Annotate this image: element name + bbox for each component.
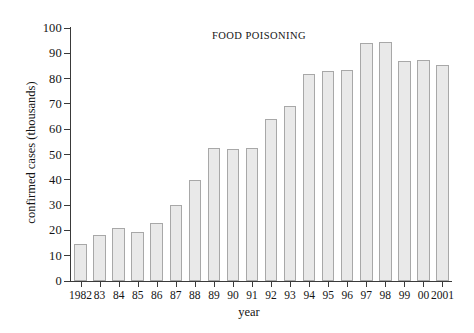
plot-area	[71, 28, 452, 281]
x-axis-tick	[347, 282, 348, 287]
x-axis-tick	[157, 282, 158, 287]
x-axis-tick	[404, 282, 405, 287]
x-axis-tick	[100, 282, 101, 287]
y-axis-tick-label: 100	[2, 22, 62, 35]
y-axis-tick	[64, 53, 71, 54]
x-axis-tick	[385, 282, 386, 287]
y-axis-tick	[64, 230, 71, 231]
x-axis-tick	[366, 282, 367, 287]
bar	[227, 149, 240, 281]
y-axis-tick	[64, 154, 71, 155]
x-axis-tick	[423, 282, 424, 287]
x-axis-title: year	[0, 306, 474, 319]
y-axis-tick	[64, 78, 71, 79]
y-axis-tick-label: 0	[2, 275, 62, 288]
x-axis-tick	[195, 282, 196, 287]
bar	[93, 235, 106, 281]
x-axis-tick	[252, 282, 253, 287]
bar	[341, 70, 354, 281]
bar	[360, 43, 373, 281]
bar	[284, 106, 297, 281]
bar	[303, 74, 316, 281]
x-axis-tick	[271, 282, 272, 287]
y-axis-tick	[64, 205, 71, 206]
bar-chart: FOOD POISONING 0102030405060708090100 co…	[0, 0, 474, 333]
y-axis-tick	[64, 281, 71, 282]
y-axis-tick	[64, 103, 71, 104]
x-axis-tick	[328, 282, 329, 287]
x-axis-tick	[81, 282, 82, 287]
y-axis-tick	[64, 255, 71, 256]
x-axis-tick	[176, 282, 177, 287]
bar	[246, 148, 259, 281]
bar	[379, 42, 392, 281]
bar	[150, 223, 163, 281]
bar	[398, 61, 411, 281]
x-axis-tick	[138, 282, 139, 287]
y-axis-tick	[64, 129, 71, 130]
bar	[131, 232, 144, 281]
x-axis-tick-label: 2001	[426, 289, 458, 301]
bar	[322, 71, 335, 281]
y-axis-title: confirmed cases (thousands)	[25, 43, 38, 263]
x-axis-tick	[214, 282, 215, 287]
x-axis-tick	[233, 282, 234, 287]
x-axis-tick	[309, 282, 310, 287]
x-axis-line	[70, 281, 452, 282]
bar	[417, 60, 430, 281]
bar	[436, 65, 449, 281]
bar	[189, 180, 202, 281]
y-axis-tick	[64, 28, 71, 29]
bar	[74, 244, 87, 281]
x-axis-tick	[119, 282, 120, 287]
bar	[112, 228, 125, 281]
bar	[170, 205, 183, 281]
x-axis-tick	[442, 282, 443, 287]
bar	[265, 119, 278, 281]
x-axis-tick	[290, 282, 291, 287]
y-axis-tick	[64, 179, 71, 180]
bar	[208, 148, 221, 281]
